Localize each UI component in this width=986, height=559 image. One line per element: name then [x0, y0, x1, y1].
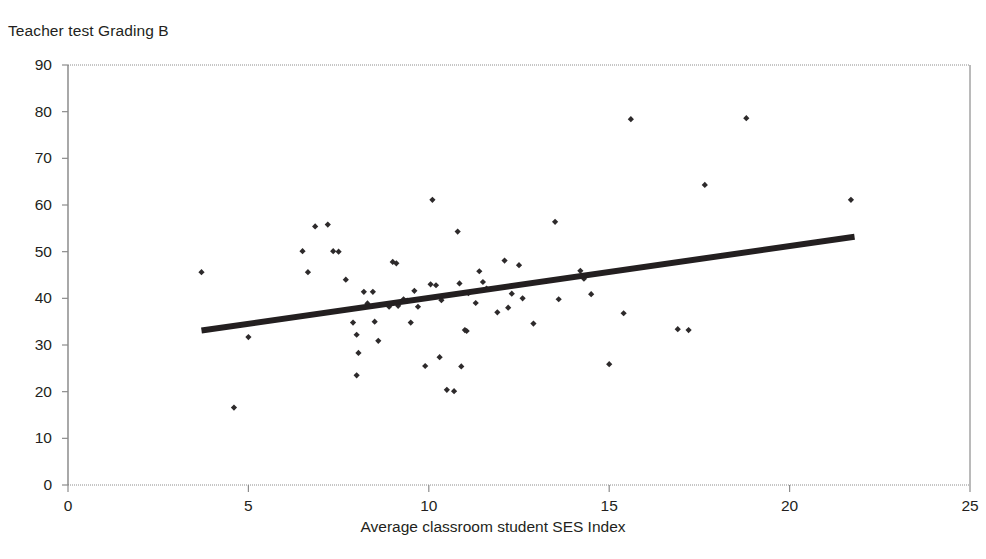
scatter-point — [355, 350, 361, 356]
scatter-point — [606, 361, 612, 367]
scatter-point — [437, 354, 443, 360]
scatter-point — [675, 326, 681, 332]
axis-lines — [68, 65, 970, 485]
scatter-point — [556, 296, 562, 302]
scatter-point — [305, 269, 311, 275]
scatter-point — [516, 262, 522, 268]
scatter-point — [444, 387, 450, 393]
scatter-point — [628, 116, 634, 122]
scatter-point — [433, 282, 439, 288]
scatter-point — [231, 404, 237, 410]
y-tick-label: 90 — [8, 57, 52, 73]
scatter-point — [480, 279, 486, 285]
y-tick-label: 10 — [8, 430, 52, 446]
y-tick-label: 30 — [8, 337, 52, 353]
chart-figure: Teacher test Grading B 01020304050607080… — [0, 0, 986, 559]
scatter-point — [429, 197, 435, 203]
scatter-point — [530, 320, 536, 326]
scatter-point — [312, 223, 318, 229]
scatter-point — [428, 281, 434, 287]
scatter-point — [743, 115, 749, 121]
scatter-point — [476, 268, 482, 274]
scatter-point — [325, 222, 331, 228]
scatter-point — [350, 320, 356, 326]
scatter-point — [702, 182, 708, 188]
scatter-point — [848, 197, 854, 203]
x-tick-label: 15 — [589, 498, 629, 514]
x-tick-label: 20 — [770, 498, 810, 514]
scatter-point — [336, 249, 342, 255]
scatter-point — [520, 295, 526, 301]
y-tick-label: 0 — [8, 477, 52, 493]
scatter-point — [458, 363, 464, 369]
scatter-point — [245, 334, 251, 340]
scatter-point — [456, 280, 462, 286]
axis-ticks — [62, 65, 970, 492]
scatter-point — [422, 363, 428, 369]
scatter-point — [588, 291, 594, 297]
y-tick-label: 20 — [8, 384, 52, 400]
scatter-point — [685, 327, 691, 333]
trend-line-segment — [201, 237, 854, 331]
scatter-point — [473, 300, 479, 306]
scatter-point — [375, 338, 381, 344]
x-axis-title: Average classroom student SES Index — [0, 518, 986, 536]
scatter-point — [370, 289, 376, 295]
scatter-point — [415, 304, 421, 310]
scatter-point — [330, 248, 336, 254]
scatter-plot-canvas — [0, 0, 986, 559]
x-tick-label: 5 — [228, 498, 268, 514]
x-tick-label: 25 — [950, 498, 986, 514]
y-tick-label: 80 — [8, 104, 52, 120]
scatter-point — [509, 291, 515, 297]
scatter-point — [494, 309, 500, 315]
scatter-point — [299, 248, 305, 254]
y-tick-label: 70 — [8, 150, 52, 166]
y-tick-label: 50 — [8, 244, 52, 260]
y-tick-label: 40 — [8, 290, 52, 306]
scatter-point — [361, 289, 367, 295]
trend-line — [201, 237, 854, 331]
data-points — [198, 115, 854, 411]
scatter-point — [501, 257, 507, 263]
scatter-point — [552, 219, 558, 225]
scatter-point — [343, 277, 349, 283]
scatter-point — [455, 229, 461, 235]
x-tick-label: 0 — [48, 498, 88, 514]
scatter-point — [408, 320, 414, 326]
x-tick-label: 10 — [409, 498, 449, 514]
scatter-point — [372, 319, 378, 325]
y-tick-label: 60 — [8, 197, 52, 213]
scatter-point — [198, 269, 204, 275]
scatter-point — [354, 372, 360, 378]
scatter-point — [621, 310, 627, 316]
scatter-point — [451, 388, 457, 394]
scatter-point — [411, 288, 417, 294]
scatter-point — [354, 332, 360, 338]
scatter-point — [505, 305, 511, 311]
